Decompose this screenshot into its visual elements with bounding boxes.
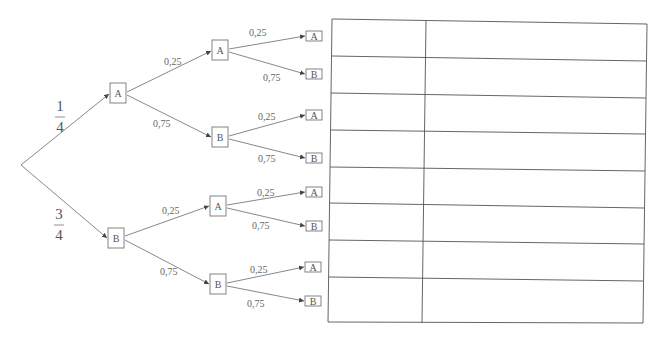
leaf-AAA: A <box>306 31 322 42</box>
edge-B-B <box>125 240 209 284</box>
leaf-AAB: B <box>306 69 322 80</box>
table-row-divider <box>332 56 646 61</box>
answer-table <box>328 19 647 323</box>
fraction-one-quarter: 1 4 <box>55 98 65 135</box>
prob-label: 0,75 <box>247 298 265 309</box>
fraction-denominator: 4 <box>56 119 64 135</box>
table-row-divider <box>329 240 644 244</box>
table-row-divider <box>329 277 643 281</box>
table-row-divider <box>331 93 646 98</box>
node-A-level1: A <box>110 83 126 103</box>
node-label: B <box>310 296 317 307</box>
edge-root-A <box>21 94 109 165</box>
prob-label: 0,75 <box>263 72 281 83</box>
leaf-BAB: B <box>306 221 322 232</box>
edge-AA-A <box>229 36 305 49</box>
probability-tree-diagram: 1 4 3 4 0,25 0,75 0,25 0,75 0,25 0,75 0,… <box>0 0 662 345</box>
node-label: A <box>310 187 318 198</box>
leaf-BAA: A <box>306 187 322 198</box>
node-label: B <box>217 132 224 143</box>
fraction-numerator: 3 <box>55 206 63 222</box>
table-row-divider <box>331 130 645 134</box>
node-BA-level2: A <box>210 196 226 216</box>
leaf-BBB: B <box>305 296 321 307</box>
prob-label: 0,25 <box>250 264 268 275</box>
fraction-numerator: 1 <box>56 98 64 114</box>
prob-label: 0,25 <box>258 111 276 122</box>
node-label: B <box>311 221 318 232</box>
node-label: B <box>113 233 120 244</box>
table-column-divider <box>422 21 426 323</box>
edge-root-B <box>21 165 107 238</box>
edge-AA-B <box>229 52 305 74</box>
node-label: B <box>311 69 318 80</box>
node-label: A <box>310 110 318 121</box>
prob-label: 0,75 <box>153 118 171 129</box>
node-label: B <box>311 153 318 164</box>
leaf-ABA: A <box>306 110 322 121</box>
fraction-three-quarters: 3 4 <box>54 206 64 243</box>
prob-label: 0,25 <box>249 27 267 38</box>
edge-BB-B <box>227 286 304 301</box>
node-label: A <box>310 31 318 42</box>
node-AA-level2: A <box>212 40 228 60</box>
prob-label: 0,25 <box>162 205 180 216</box>
table-row-divider <box>330 203 644 208</box>
prob-label: 0,75 <box>252 220 270 231</box>
prob-label: 0,25 <box>164 56 182 67</box>
leaf-BBA: A <box>305 262 321 273</box>
fraction-denominator: 4 <box>55 227 63 243</box>
node-label: A <box>216 45 224 56</box>
leaf-ABB: B <box>306 153 322 164</box>
prob-label: 0,75 <box>160 266 178 277</box>
node-label: A <box>309 262 317 273</box>
node-label: B <box>215 279 222 290</box>
table-row-divider <box>330 167 645 171</box>
node-AB-level2: B <box>212 127 228 147</box>
edge-A-B <box>127 95 211 137</box>
root-edges <box>21 94 109 238</box>
node-label: A <box>214 201 222 212</box>
prob-label: 0,25 <box>257 187 275 198</box>
node-label: A <box>114 88 122 99</box>
node-B-level1: B <box>108 228 124 248</box>
level2-edges <box>125 51 211 284</box>
prob-label: 0,75 <box>258 153 276 164</box>
node-BB-level2: B <box>210 274 226 294</box>
